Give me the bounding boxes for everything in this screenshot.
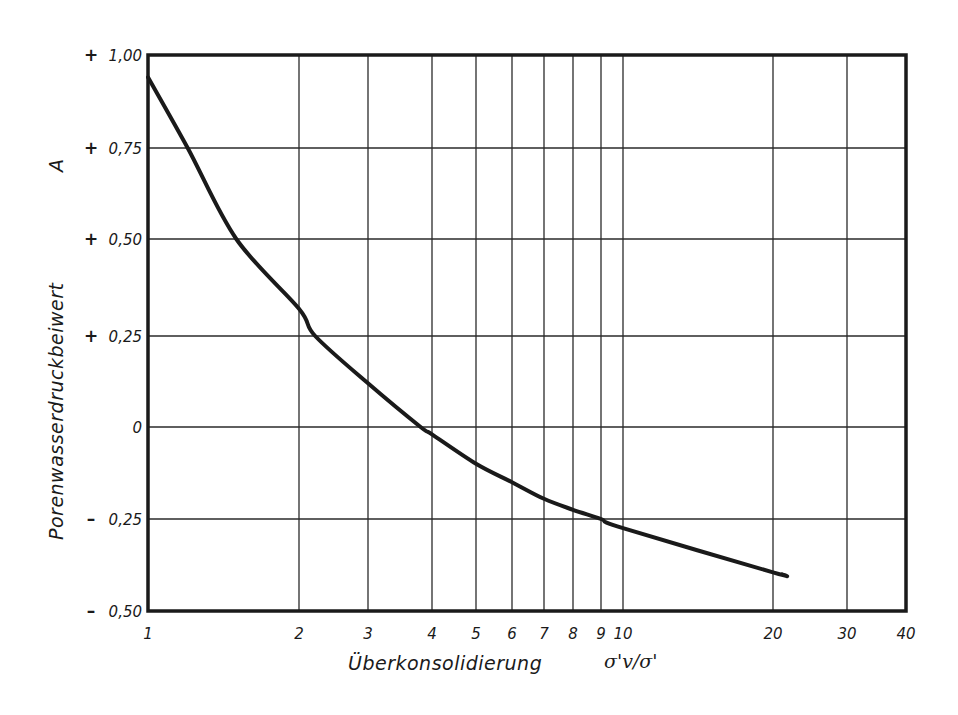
x-tick-label: 40 <box>896 625 915 643</box>
y-tick-label: 0 <box>132 419 142 437</box>
y-tick-sign: – <box>87 509 96 529</box>
y-axis-title: Porenwasserdruckbeiwert A <box>45 159 67 541</box>
x-axis-ticks: 12345678910203040 <box>143 625 915 643</box>
x-tick-label: 6 <box>507 625 517 643</box>
x-axis-title: Überkonsolidierung σ'v/σ' <box>348 650 658 674</box>
y-axis-label: Porenwasserdruckbeiwert <box>45 281 67 540</box>
y-tick-label: 0,25 <box>109 511 142 529</box>
pore-pressure-curve <box>148 77 787 576</box>
x-tick-label: 4 <box>427 625 437 643</box>
y-tick-label: 0,75 <box>109 140 142 158</box>
y-tick-sign: + <box>84 229 98 249</box>
y-axis-ticks: +1,00+0,75+0,50+0,250–0,25–0,50 <box>84 45 142 621</box>
y-tick-sign: + <box>84 326 98 346</box>
y-tick-sign: + <box>84 45 98 65</box>
y-tick-sign: + <box>84 138 98 158</box>
x-tick-label: 20 <box>763 625 782 643</box>
data-series <box>148 77 787 576</box>
x-axis-symbol: σ'v/σ' <box>604 650 658 672</box>
x-tick-label: 7 <box>539 625 549 643</box>
x-tick-label: 1 <box>143 625 153 643</box>
grid-lines <box>148 55 906 611</box>
x-tick-label: 30 <box>837 625 856 643</box>
x-tick-label: 8 <box>568 625 578 643</box>
x-tick-label: 2 <box>294 625 304 643</box>
x-axis-label: Überkonsolidierung <box>348 652 542 674</box>
x-tick-label: 3 <box>363 625 373 643</box>
x-tick-label: 10 <box>613 625 632 643</box>
y-axis-symbol: A <box>45 159 67 175</box>
x-tick-label: 9 <box>596 625 606 643</box>
y-tick-label: 0,25 <box>109 328 142 346</box>
x-tick-label: 5 <box>471 625 481 643</box>
y-tick-label: 0,50 <box>109 231 142 249</box>
y-tick-label: 0,50 <box>109 603 142 621</box>
plot-frame <box>148 55 906 611</box>
y-tick-sign: – <box>87 601 96 621</box>
y-tick-label: 1,00 <box>109 47 142 65</box>
chart: +1,00+0,75+0,50+0,250–0,25–0,50 12345678… <box>0 0 958 715</box>
